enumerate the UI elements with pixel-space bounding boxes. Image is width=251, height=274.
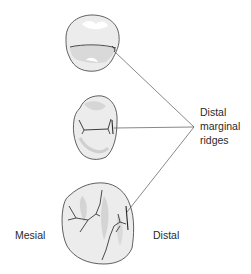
label-line-marginal: marginal [200,119,240,133]
mesial-label: Mesial [15,228,45,242]
label-line-distal: Distal [200,105,240,119]
bottom-tooth [62,183,134,264]
distal-marginal-ridges-label: Distal marginal ridges [200,105,240,147]
middle-tooth [73,96,117,160]
distal-label: Distal [153,228,179,242]
top-tooth [66,15,119,71]
leader-lines [114,52,194,212]
label-line-ridges: ridges [200,133,240,147]
